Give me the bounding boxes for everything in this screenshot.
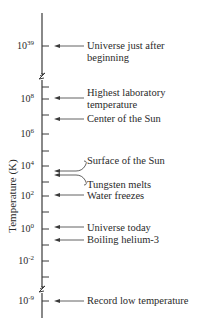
tick-base: 10: [21, 190, 31, 201]
event-label-line: Surface of the Sun: [87, 155, 165, 167]
arrowhead-icon: [54, 117, 60, 121]
tick-base: 10: [21, 93, 31, 104]
arrowhead-icon: [54, 225, 60, 229]
event-label-line: Center of the Sun: [87, 113, 161, 125]
tick-base: 10: [21, 223, 31, 234]
arrowhead-icon: [54, 169, 60, 173]
pointer-line: [58, 175, 86, 185]
tick-label: 10-9: [4, 296, 34, 307]
arrowhead-icon: [54, 96, 60, 100]
arrowhead-icon: [54, 193, 60, 197]
event-label-line: Water freezes: [87, 190, 144, 202]
tick-base: 10: [18, 255, 28, 266]
event-label: Universe today: [87, 222, 151, 234]
event-label-line: temperature: [87, 99, 165, 111]
tick-exponent: -2: [28, 254, 34, 262]
tick-label: 104: [4, 161, 34, 172]
event-label: Surface of the Sun: [87, 155, 165, 167]
event-label-line: Universe today: [87, 222, 151, 234]
event-label-line: Universe just after: [87, 40, 165, 52]
event-label: Record low temperature: [87, 295, 188, 307]
event-label-line: Boiling helium-3: [87, 234, 159, 246]
arrowhead-icon: [54, 173, 60, 177]
tick-base: 10: [21, 128, 31, 139]
tick-exponent: 8: [31, 92, 35, 100]
tick-label: 10-2: [4, 256, 34, 267]
arrowhead-icon: [54, 44, 60, 48]
event-label: Boiling helium-3: [87, 234, 159, 246]
tick-base: 10: [17, 40, 27, 51]
temperature-scale-diagram: Temperature (K) 103910810610410210010-21…: [0, 0, 203, 328]
event-label: Water freezes: [87, 190, 144, 202]
pointer-line: [58, 161, 86, 171]
tick-label: 106: [4, 129, 34, 140]
arrowhead-icon: [54, 299, 60, 303]
tick-label: 1039: [4, 41, 34, 52]
tick-exponent: -9: [28, 294, 34, 302]
tick-exponent: 6: [31, 127, 35, 135]
tick-label: 102: [4, 191, 34, 202]
event-label-line: Highest laboratory: [87, 87, 165, 99]
tick-exponent: 39: [27, 39, 34, 47]
event-label-line: beginning: [87, 52, 165, 64]
event-label: Universe just afterbeginning: [87, 40, 165, 64]
tick-exponent: 4: [31, 159, 35, 167]
tick-label: 108: [4, 94, 34, 105]
tick-label: 100: [4, 224, 34, 235]
event-label-line: Record low temperature: [87, 295, 188, 307]
arrowhead-icon: [54, 238, 60, 242]
event-label: Center of the Sun: [87, 113, 161, 125]
event-label: Highest laboratorytemperature: [87, 87, 165, 111]
tick-base: 10: [21, 160, 31, 171]
tick-exponent: 2: [31, 189, 35, 197]
tick-exponent: 0: [31, 222, 35, 230]
tick-base: 10: [18, 295, 28, 306]
